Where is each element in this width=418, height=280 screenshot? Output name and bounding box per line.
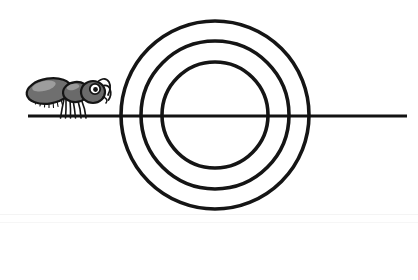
ant-eye [90, 84, 100, 94]
faint-band-upper [0, 214, 418, 215]
ant-pupil [93, 87, 98, 92]
illustration-svg [0, 0, 418, 280]
faint-band-lower [0, 222, 418, 223]
illustration-canvas [0, 0, 418, 280]
